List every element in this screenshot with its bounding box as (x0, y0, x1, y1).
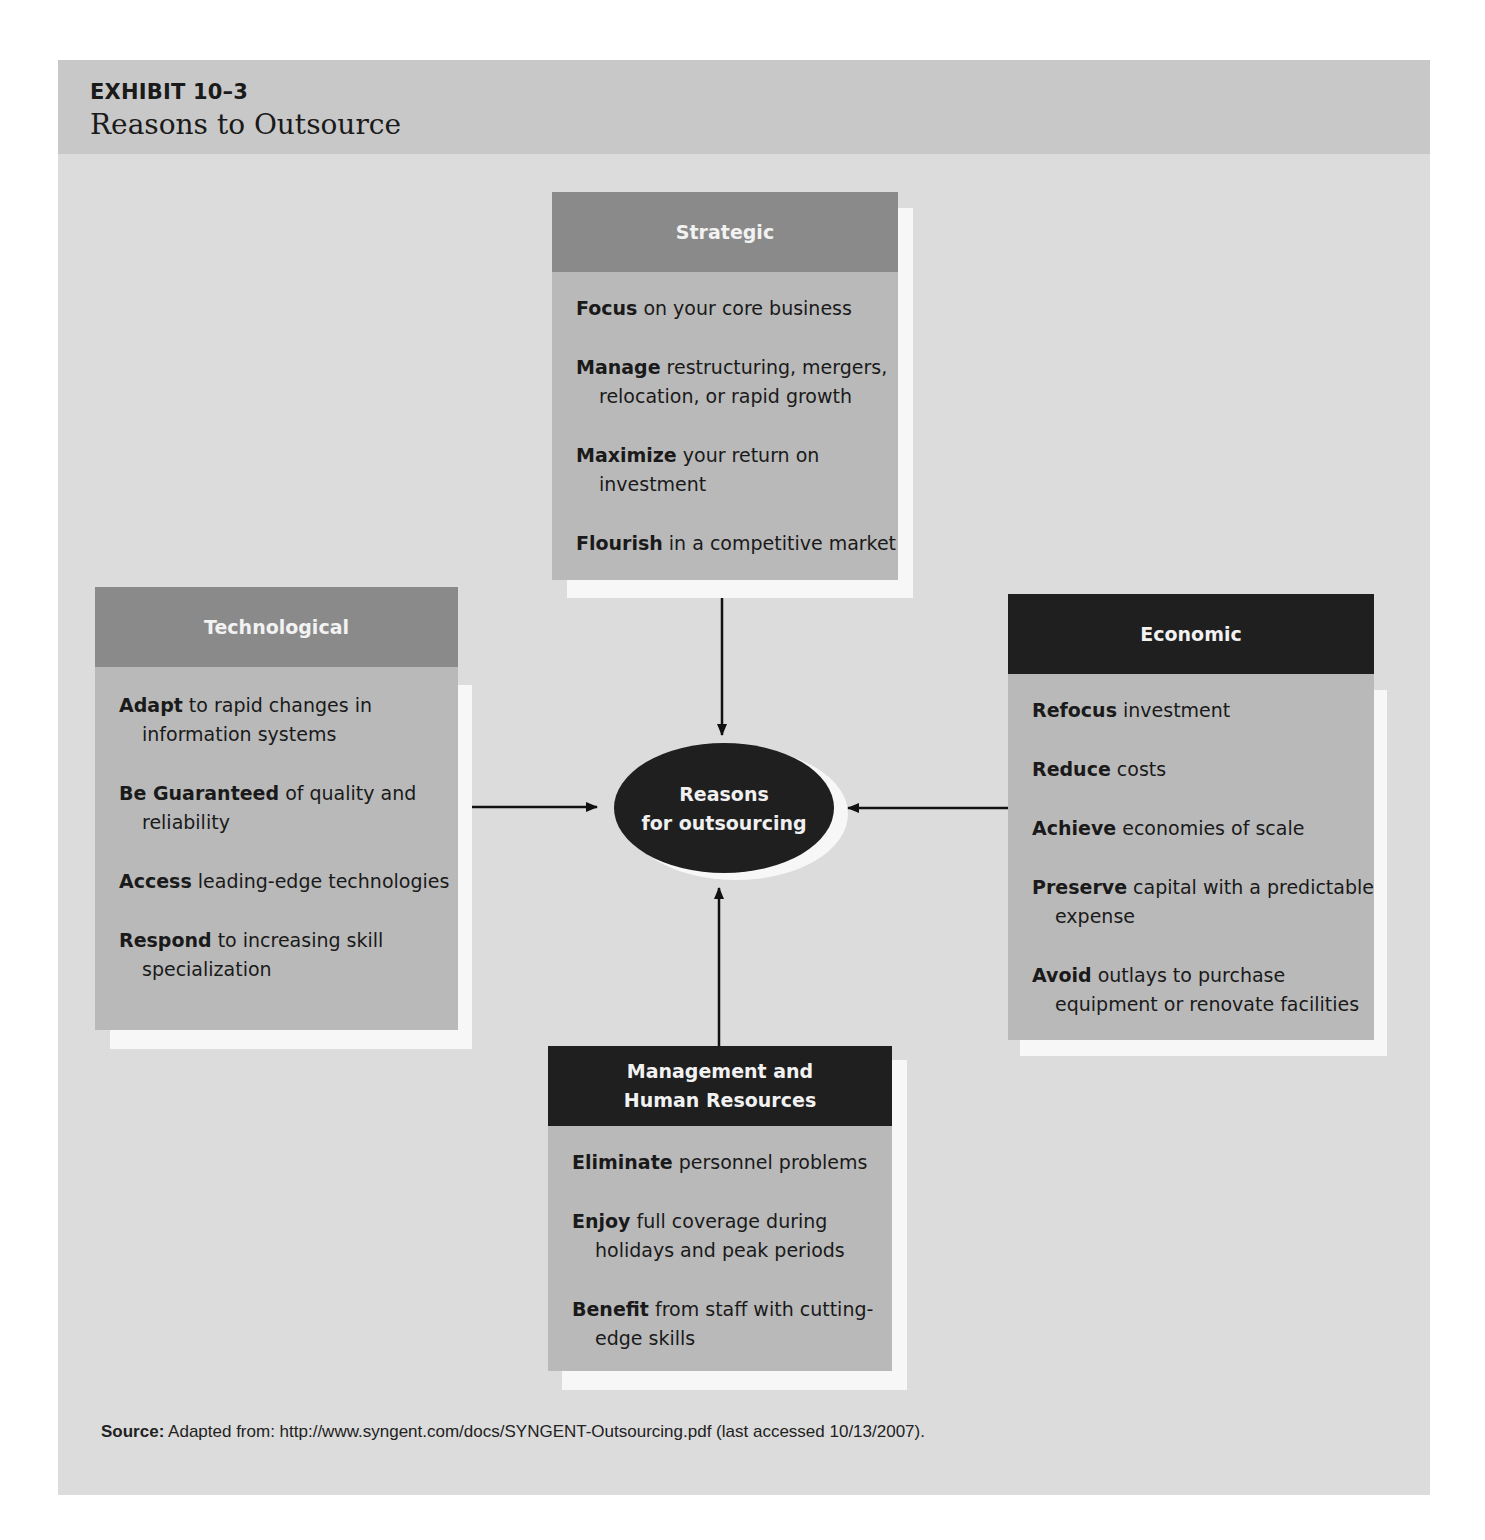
management-header: Management and Human Resources (548, 1046, 892, 1126)
list-item: Manage restructuring, mergers, relocatio… (576, 353, 898, 411)
list-item: Flourish in a competitive market (576, 529, 898, 558)
strategic-items: Focus on your core business Manage restr… (552, 272, 898, 558)
technological-header: Technological (95, 587, 458, 667)
strategic-header: Strategic (552, 192, 898, 272)
management-header-line1: Management and (627, 1057, 813, 1086)
list-item: Access leading-edge technologies (119, 867, 458, 896)
list-item: Achieve economies of scale (1032, 814, 1374, 843)
management-items: Eliminate personnel problems Enjoy full … (548, 1126, 892, 1353)
center-label-line2: for outsourcing (614, 809, 834, 838)
technological-box: Technological Adapt to rapid changes in … (95, 587, 458, 1030)
list-item: Adapt to rapid changes in information sy… (119, 691, 458, 749)
list-item: Focus on your core business (576, 294, 898, 323)
list-item: Respond to increasing skill specializati… (119, 926, 458, 984)
list-item: Reduce costs (1032, 755, 1374, 784)
center-label-line1: Reasons (614, 780, 834, 809)
list-item: Preserve capital with a predictable expe… (1032, 873, 1374, 931)
source-text: Adapted from: http://www.syngent.com/doc… (164, 1422, 925, 1441)
economic-box: Economic Refocus investment Reduce costs… (1008, 594, 1374, 1040)
list-item: Be Guaranteed of quality and reliability (119, 779, 458, 837)
list-item: Benefit from staff with cutting-edge ski… (572, 1295, 892, 1353)
list-item: Refocus investment (1032, 696, 1374, 725)
center-label: Reasons for outsourcing (614, 780, 834, 838)
technological-items: Adapt to rapid changes in information sy… (95, 667, 458, 984)
list-item: Avoid outlays to purchase equipment or r… (1032, 961, 1374, 1019)
list-item: Enjoy full coverage during holidays and … (572, 1207, 892, 1265)
source-label: Source: (101, 1422, 164, 1441)
economic-header: Economic (1008, 594, 1374, 674)
list-item: Maximize your return on investment (576, 441, 898, 499)
management-box: Management and Human Resources Eliminate… (548, 1046, 892, 1371)
management-header-line2: Human Resources (624, 1086, 816, 1115)
source-note: Source: Adapted from: http://www.syngent… (101, 1422, 925, 1442)
list-item: Eliminate personnel problems (572, 1148, 892, 1177)
strategic-box: Strategic Focus on your core business Ma… (552, 192, 898, 580)
economic-items: Refocus investment Reduce costs Achieve … (1008, 674, 1374, 1019)
